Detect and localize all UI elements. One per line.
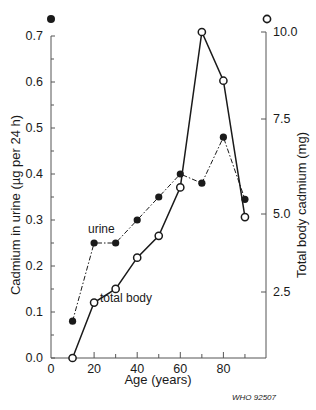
left-tick-label: 0.3 xyxy=(26,213,43,227)
left-tick-label: 0.2 xyxy=(26,259,43,273)
total-body-point xyxy=(91,299,98,306)
x-axis-ticks xyxy=(73,352,245,358)
urine-point xyxy=(177,170,184,177)
x-tick-label: 80 xyxy=(216,362,230,376)
left-axis-tick-labels: 0.00.10.20.30.40.50.60.7 xyxy=(26,29,43,365)
total-body-point xyxy=(134,254,141,261)
left-tick-label: 0.0 xyxy=(26,351,43,365)
total-body-point xyxy=(220,77,227,84)
right-tick-label: 5.0 xyxy=(273,207,290,221)
right-tick-label: 10.0 xyxy=(273,25,297,39)
left-axis-filled-marker-icon xyxy=(47,15,55,23)
right-tick-label: 7.5 xyxy=(273,112,290,126)
right-axis-ticks xyxy=(261,32,266,292)
left-tick-label: 0.6 xyxy=(26,75,43,89)
right-tick-label: 2.5 xyxy=(273,285,290,299)
total-body-point xyxy=(155,232,162,239)
total-body-series-label: total body xyxy=(100,291,152,305)
total-body-point xyxy=(241,214,248,221)
y-axis-title: Cadmium in urine (µg per 24 h) xyxy=(8,115,23,295)
total-body-point xyxy=(69,354,76,361)
figure-credit: WHO 92507 xyxy=(232,393,277,402)
urine-series-label: urine xyxy=(88,222,115,236)
urine-point xyxy=(112,239,119,246)
total-body-point xyxy=(198,28,205,35)
x-tick-label: 20 xyxy=(87,362,101,376)
y2-axis-title: Total body cadmium (mg) xyxy=(294,132,309,278)
x-axis-title: Age (years) xyxy=(124,372,191,387)
urine-point xyxy=(69,318,76,325)
urine-point xyxy=(220,134,227,141)
urine-point xyxy=(241,196,248,203)
urine-point xyxy=(155,193,162,200)
left-tick-label: 0.1 xyxy=(26,305,43,319)
right-axis-open-marker-icon xyxy=(263,15,270,22)
left-axis-ticks xyxy=(51,36,55,358)
urine-point xyxy=(198,180,205,187)
left-tick-label: 0.7 xyxy=(26,29,43,43)
cadmium-age-chart: 0.00.10.20.30.40.50.60.7 020406080 2.55.… xyxy=(0,0,316,410)
urine-point xyxy=(91,239,98,246)
urine-point xyxy=(134,216,141,223)
left-tick-label: 0.5 xyxy=(26,121,43,135)
total-body-point xyxy=(177,184,184,191)
left-tick-label: 0.4 xyxy=(26,167,43,181)
x-tick-label: 0 xyxy=(48,362,55,376)
